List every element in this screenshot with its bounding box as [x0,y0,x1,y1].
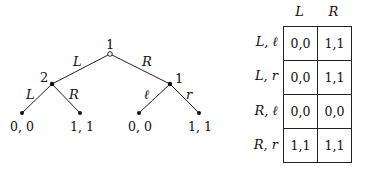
matrix-cell: 1,1 [318,27,352,61]
leaf-node [197,111,201,115]
edge-label: L [72,54,82,69]
edge-label: L [25,87,35,102]
row-label: L, ℓ [238,34,278,50]
payoff-matrix: 0,0 1,1 0,0 1,1 0,0 0,0 1,1 1,1 [283,26,352,163]
matrix-row: 0,0 0,0 [284,95,352,129]
matrix-cell: 1,1 [318,129,352,163]
decision-node-player2 [50,82,54,86]
edge-label: ℓ [144,87,150,102]
root-player-label: 1 [106,37,114,52]
matrix-cell: 0,0 [284,95,318,129]
matrix-cell: 0,0 [284,27,318,61]
edge-label: R [68,87,79,102]
leaf-node [20,111,24,115]
leaf-payoff: 0, 0 [128,119,152,134]
edge-p1-right [170,84,199,113]
row-label: R, ℓ [238,103,278,119]
edge-label: R [141,54,152,69]
leaf-payoff: 1, 1 [188,119,212,134]
node-player-label: 2 [40,70,48,85]
node-player-label: 1 [175,71,183,86]
leaf-payoff: 0, 0 [10,119,34,134]
leaf-node [137,111,141,115]
root-node [108,52,113,57]
matrix-cell: 1,1 [284,129,318,163]
edge-root-right [110,54,170,84]
row-label: R, r [238,137,278,152]
matrix-row: 0,0 1,1 [284,61,352,95]
edge-label: r [186,87,193,102]
row-label: L, r [238,68,278,83]
matrix-cell: 0,0 [284,61,318,95]
matrix-row: 1,1 1,1 [284,129,352,163]
col-header: L [283,4,316,19]
leaf-node [78,111,82,115]
leaf-payoff: 1, 1 [70,119,94,134]
col-header: R [317,4,350,19]
matrix-cell: 0,0 [318,95,352,129]
matrix-row: 0,0 1,1 [284,27,352,61]
decision-node-player1 [168,82,172,86]
matrix-cell: 1,1 [318,61,352,95]
